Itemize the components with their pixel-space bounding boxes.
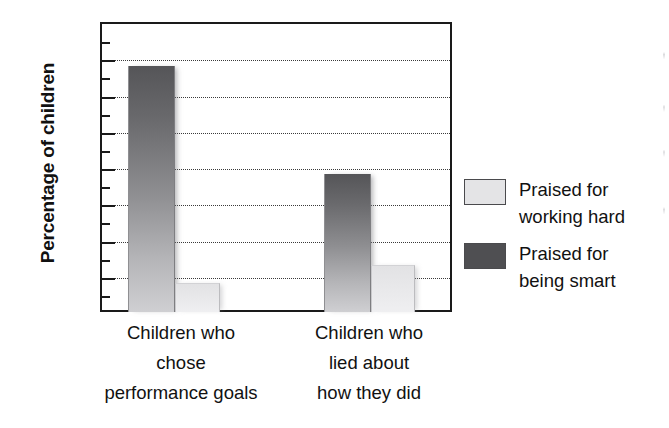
legend-swatch-dark-icon [464,243,506,269]
bar-group2-praised-being-smart[interactable] [324,174,371,312]
legend-label-being-smart-line1: Praised for [519,240,616,267]
bars-layer [100,22,452,312]
legend-label-working-hard-line2: working hard [519,203,625,230]
legend-entry-praised-being-smart[interactable]: Praised for being smart [464,240,669,294]
x-category-label-group2-line2: lied about [274,348,464,378]
bar-group2-praised-working-hard[interactable] [371,265,415,312]
legend-label-being-smart-line2: being smart [519,267,616,294]
bar-group1-praised-working-hard[interactable] [175,283,220,312]
x-category-label-group2: Children who lied about how they did [274,318,464,408]
legend-label-working-hard-line1: Praised for [519,176,625,203]
legend: Praised for working hard Praised for bei… [464,176,669,304]
x-category-label-group2-line3: how they did [274,378,464,408]
x-category-label-group1-line2: chose [86,348,276,378]
legend-label-praised-working-hard: Praised for working hard [519,176,625,230]
x-category-label-group2-line1: Children who [274,318,464,348]
x-category-label-group1-line3: performance goals [86,378,276,408]
bar-chart: Percentage of children 80 70 60 50 40 30… [0,0,669,428]
y-axis-title: Percentage of children [37,23,59,303]
x-axis-category-labels: Children who chose performance goals Chi… [100,318,452,424]
legend-label-praised-being-smart: Praised for being smart [519,240,616,294]
x-category-label-group1: Children who chose performance goals [86,318,276,408]
x-category-label-group1-line1: Children who [86,318,276,348]
scan-artifact [663,12,665,262]
bar-group1-praised-being-smart[interactable] [128,66,175,313]
legend-swatch-light-icon [464,179,506,205]
legend-entry-praised-working-hard[interactable]: Praised for working hard [464,176,669,230]
